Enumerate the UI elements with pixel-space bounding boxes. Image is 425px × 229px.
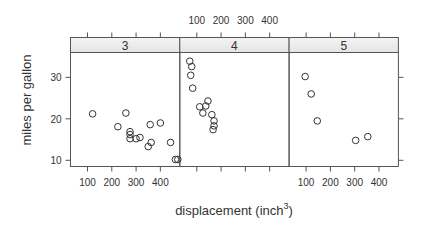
data-point <box>209 111 216 118</box>
data-point <box>308 91 315 98</box>
x-tick-label: 300 <box>346 177 363 188</box>
y-tick-label: 10 <box>50 155 62 166</box>
data-point <box>210 126 217 133</box>
x-tick-label: 100 <box>298 177 315 188</box>
strip-label: 5 <box>340 39 347 53</box>
panels <box>71 53 399 167</box>
data-point <box>187 72 194 79</box>
data-point <box>89 111 96 118</box>
x-tick-label: 200 <box>322 177 339 188</box>
panel-frame <box>180 53 289 167</box>
x-tick-label: 200 <box>103 177 120 188</box>
x-tick-label: 400 <box>371 177 388 188</box>
x-tick-label: 200 <box>213 15 230 26</box>
data-point <box>352 137 359 144</box>
data-point <box>364 133 371 140</box>
panel-frame <box>289 53 398 167</box>
panel-strips: 345 <box>71 38 399 53</box>
data-point <box>314 118 321 125</box>
x-axis-title-close: ) <box>289 203 293 218</box>
data-point <box>137 134 144 141</box>
x-tick-label: 300 <box>128 177 145 188</box>
y-tick-label: 20 <box>50 114 62 125</box>
x-axis-title: displacement (inch3) <box>175 201 293 218</box>
strip-label: 4 <box>231 39 238 53</box>
data-points <box>89 58 371 163</box>
data-point <box>189 85 196 92</box>
x-tick-label: 100 <box>188 15 205 26</box>
data-point <box>157 120 164 127</box>
x-tick-label: 400 <box>261 15 278 26</box>
data-point <box>147 121 154 128</box>
data-point <box>200 110 207 117</box>
y-axis-title: miles per gallon <box>19 54 34 145</box>
x-tick-label: 100 <box>79 177 96 188</box>
strip-4: 4 <box>180 38 289 53</box>
data-point <box>115 123 122 130</box>
data-point <box>302 73 309 80</box>
x-tick-label: 300 <box>237 15 254 26</box>
y-tick-label: 30 <box>50 72 62 83</box>
strip-3: 3 <box>71 38 180 53</box>
data-point <box>196 104 203 111</box>
strip-5: 5 <box>289 38 398 53</box>
data-point <box>167 139 174 146</box>
x-tick-label: 400 <box>152 177 169 188</box>
x-axis-title-base: displacement (inch <box>175 203 283 218</box>
data-point <box>123 110 130 117</box>
lattice-scatter-chart: 345 100200300400100200300400100200300400… <box>0 0 425 229</box>
strip-label: 3 <box>122 39 129 53</box>
